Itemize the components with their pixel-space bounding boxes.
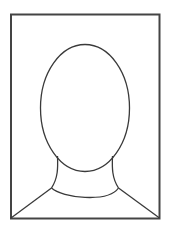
head-outline xyxy=(41,45,130,172)
shoulder-right xyxy=(119,188,160,218)
collar-curve xyxy=(52,188,119,197)
shoulder-left xyxy=(11,188,52,218)
neck-right xyxy=(112,156,118,188)
person-silhouette-icon xyxy=(0,0,171,236)
photo-placeholder: Passport photo placeholder silhouette xyxy=(0,0,171,236)
neck-left xyxy=(52,156,58,188)
